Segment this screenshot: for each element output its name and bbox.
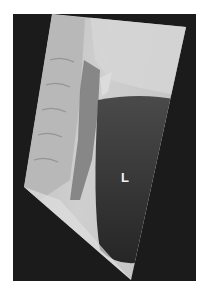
lesion-region (95, 96, 178, 263)
xray-image (0, 0, 206, 292)
radiograph-figure: L (0, 0, 206, 292)
annotation-label-l: L (121, 171, 129, 184)
